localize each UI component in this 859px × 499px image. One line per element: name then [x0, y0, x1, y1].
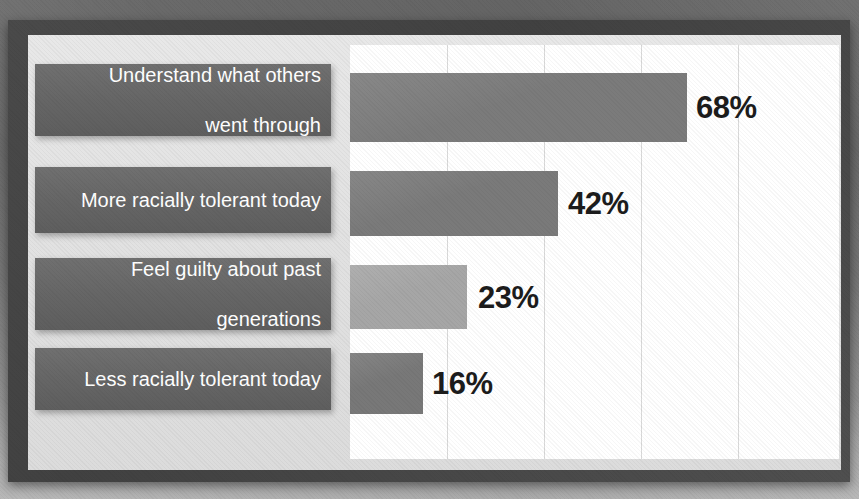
bar-fill — [350, 73, 687, 142]
bar-3[interactable] — [350, 353, 423, 414]
bar-fill — [350, 353, 423, 414]
bar-1[interactable] — [350, 171, 558, 236]
chart-frame: Understand what others went through 68% … — [8, 20, 850, 482]
category-label-line-1: Feel guilty about past — [45, 257, 321, 282]
bar-fill — [350, 171, 558, 236]
category-label-3[interactable]: Less racially tolerant today — [35, 348, 331, 410]
bar-value-label-3: 16% — [432, 366, 493, 402]
bar-0[interactable] — [350, 73, 687, 142]
category-label-line-1: More racially tolerant today — [45, 188, 321, 213]
bar-value-label-1: 42% — [568, 186, 629, 222]
category-label-1[interactable]: More racially tolerant today — [35, 167, 331, 233]
bar-fill — [350, 265, 467, 329]
bar-2[interactable] — [350, 265, 467, 329]
category-label-line-2: generations — [45, 307, 321, 332]
chart-panel: Understand what others went through 68% … — [28, 35, 841, 470]
category-label-line-1: Less racially tolerant today — [45, 367, 321, 392]
category-label-0[interactable]: Understand what others went through — [35, 64, 331, 136]
slide-backdrop: Understand what others went through 68% … — [0, 0, 859, 499]
bar-value-label-2: 23% — [478, 280, 539, 316]
category-label-line-1: Understand what others — [45, 63, 321, 88]
category-label-line-2: went through — [45, 113, 321, 138]
bar-value-label-0: 68% — [696, 90, 757, 126]
category-label-2[interactable]: Feel guilty about past generations — [35, 258, 331, 330]
